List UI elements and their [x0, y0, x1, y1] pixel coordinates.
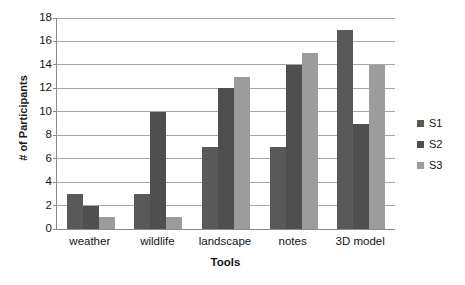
bar-wildlife-s2 — [150, 112, 166, 229]
bar-notes-s2 — [286, 65, 302, 229]
y-axis-tick-label: 8 — [20, 129, 52, 141]
bar-landscape-s2 — [218, 88, 234, 229]
y-axis-tick-label: 0 — [20, 223, 52, 235]
y-axis-tick-label: 18 — [20, 12, 52, 24]
x-axis-label-3d-model: 3D model — [326, 234, 394, 248]
x-axis-label-wildlife: wildlife — [124, 234, 192, 248]
y-axis-tick-label: 2 — [20, 200, 52, 212]
bar-group — [57, 18, 125, 229]
y-axis-tick-label: 12 — [20, 82, 52, 94]
legend-label: S3 — [429, 160, 442, 171]
legend-label: S1 — [429, 118, 442, 129]
bar-wildlife-s1 — [134, 194, 150, 229]
bar-group — [125, 18, 193, 229]
legend-label: S2 — [429, 139, 442, 150]
legend-swatch-icon — [417, 120, 424, 127]
plot-area — [56, 18, 395, 230]
bar-group — [192, 18, 260, 229]
bar-weather-s1 — [67, 194, 83, 229]
x-axis-label-landscape: landscape — [191, 234, 259, 248]
bar-notes-s1 — [270, 147, 286, 229]
bar-notes-s3 — [302, 53, 318, 229]
y-axis-tick-label: 16 — [20, 35, 52, 47]
x-axis-label-weather: weather — [56, 234, 124, 248]
y-axis-tick-label: 14 — [20, 59, 52, 71]
x-axis-label-notes: notes — [259, 234, 327, 248]
bar-3d-model-s1 — [337, 30, 353, 229]
legend: S1S2S3 — [417, 113, 463, 176]
y-axis-tick-labels: 024681012141618 — [20, 0, 52, 285]
bar-wildlife-s3 — [166, 217, 182, 229]
legend-swatch-icon — [417, 141, 424, 148]
bar-landscape-s3 — [234, 77, 250, 229]
y-axis-tick-label: 10 — [20, 106, 52, 118]
y-axis-tick-label: 4 — [20, 176, 52, 188]
bar-3d-model-s2 — [353, 124, 369, 230]
bar-3d-model-s3 — [369, 65, 385, 229]
x-axis-title: Tools — [56, 256, 395, 268]
x-axis-category-labels: weatherwildlifelandscapenotes3D model — [56, 234, 395, 254]
bar-weather-s3 — [99, 217, 115, 229]
legend-item-s3[interactable]: S3 — [417, 155, 463, 176]
bar-group — [327, 18, 395, 229]
bar-group — [260, 18, 328, 229]
bar-landscape-s1 — [202, 147, 218, 229]
legend-item-s2[interactable]: S2 — [417, 134, 463, 155]
legend-item-s1[interactable]: S1 — [417, 113, 463, 134]
bar-weather-s2 — [83, 206, 99, 229]
bar-chart: # of Participants 024681012141618 weathe… — [0, 0, 465, 285]
legend-swatch-icon — [417, 162, 424, 169]
y-axis-tick-label: 6 — [20, 153, 52, 165]
